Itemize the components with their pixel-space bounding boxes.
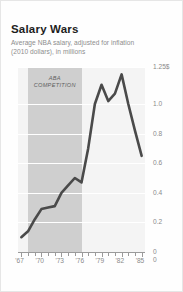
- x-axis-tick: [95, 253, 96, 256]
- x-axis-tick-label: '67: [15, 257, 24, 264]
- x-axis-tick: [48, 253, 49, 256]
- x-axis-tick: [75, 253, 76, 256]
- y-axis-tick-label: 0.4: [153, 189, 162, 196]
- y-axis-tick-label: 0: [153, 248, 157, 255]
- y-axis-tick-label: 0.6: [153, 159, 162, 166]
- x-axis-tick: [135, 253, 136, 256]
- x-axis-tick: [28, 253, 29, 256]
- y-axis-zero-label: 0: [153, 256, 157, 263]
- x-axis-tick: [68, 253, 69, 256]
- plot-area: ABA COMPETITION: [18, 67, 145, 252]
- x-axis-tick-label: '76: [76, 257, 85, 264]
- chart-card: Salary Wars Average NBA salary, adjusted…: [0, 0, 183, 292]
- x-axis-tick: [55, 253, 56, 256]
- salary-line-series: [18, 67, 145, 252]
- y-axis-tick-label: 1.25$: [153, 63, 170, 70]
- chart-title: Salary Wars: [11, 23, 79, 35]
- x-axis-tick-label: '85: [136, 257, 145, 264]
- x-axis: [18, 252, 145, 256]
- x-axis-tick-label: '70: [35, 257, 44, 264]
- y-axis-tick-label: 0.2: [153, 218, 162, 225]
- x-axis-tick: [35, 253, 36, 256]
- chart-subtitle: Average NBA salary, adjusted for inflati…: [11, 39, 151, 56]
- y-axis-tick-label: 0.8: [153, 130, 162, 137]
- x-axis-tick: [108, 253, 109, 256]
- x-axis-labels: '67'70'73'76'79'82'850: [1, 257, 183, 269]
- chart-subtitle-line-2: (2010 dollars), in millions: [11, 48, 151, 57]
- x-axis-tick: [88, 253, 89, 256]
- chart-subtitle-line-1: Average NBA salary, adjusted for inflati…: [11, 39, 151, 48]
- x-axis-tick-label: '79: [96, 257, 105, 264]
- x-axis-tick: [128, 253, 129, 256]
- x-axis-tick-label: '82: [116, 257, 125, 264]
- y-axis-labels: 00.20.40.60.81.01.25$: [149, 61, 183, 261]
- x-axis-tick-label: '73: [55, 257, 64, 264]
- x-axis-tick: [115, 253, 116, 256]
- y-axis-tick-label: 1.0: [153, 100, 162, 107]
